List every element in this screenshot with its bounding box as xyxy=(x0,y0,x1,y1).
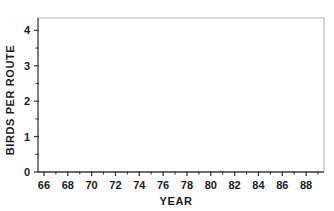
x-axis-tick-label: 76 xyxy=(157,179,169,191)
chart-figure: 01234 666870727476788082848688 YEAR BIRD… xyxy=(0,0,334,211)
x-axis-tick-label: 86 xyxy=(276,179,288,191)
x-axis-tick-label: 74 xyxy=(133,179,146,191)
y-axis-tick-label: 4 xyxy=(24,24,31,36)
x-axis-title: YEAR xyxy=(160,195,193,207)
x-axis-tick-label: 78 xyxy=(181,179,193,191)
x-axis-tick-label: 66 xyxy=(38,179,50,191)
x-axis-tick-label: 82 xyxy=(229,179,241,191)
y-axis-title: BIRDS PER ROUTE xyxy=(4,45,16,155)
x-axis-tick-label: 68 xyxy=(62,179,74,191)
x-axis-tick-label: 72 xyxy=(109,179,121,191)
x-axis-tick-label: 84 xyxy=(252,179,265,191)
y-axis-tick-label: 0 xyxy=(24,166,30,178)
y-axis-tick-label: 3 xyxy=(24,60,30,72)
x-axis-tick-label: 70 xyxy=(86,179,98,191)
line-chart: 01234 666870727476788082848688 YEAR BIRD… xyxy=(0,0,334,211)
y-axis-tick-label: 2 xyxy=(24,95,30,107)
x-axis-tick-label: 88 xyxy=(300,179,312,191)
x-axis-tick-label: 80 xyxy=(205,179,217,191)
y-axis-tick-label: 1 xyxy=(24,131,30,143)
